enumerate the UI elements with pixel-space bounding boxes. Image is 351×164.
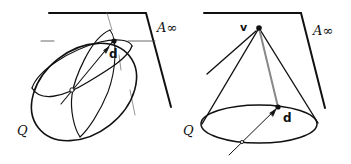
right-surface-q-label: Q xyxy=(183,124,194,137)
left-center-point xyxy=(70,88,74,92)
right-plane-label: A∞ xyxy=(313,24,333,37)
right-base-point xyxy=(240,140,243,143)
left-point-d-label: d xyxy=(109,48,118,60)
vertex-v-label: v xyxy=(240,22,247,33)
left-panel xyxy=(12,13,171,161)
ellipsoid-outline xyxy=(12,23,155,161)
right-arrowhead xyxy=(270,109,276,116)
left-point-d xyxy=(111,38,116,43)
right-panel xyxy=(201,13,325,155)
vertex-to-d-line xyxy=(259,28,278,107)
left-plane-label: A∞ xyxy=(157,21,177,34)
right-point-d-label: d xyxy=(283,112,292,124)
cone-left-side xyxy=(202,28,259,124)
cone-base-ellipse xyxy=(201,105,317,143)
left-surface-q-label: Q xyxy=(17,124,28,137)
ellipsoid-meridian xyxy=(71,30,110,137)
vertex-point-v xyxy=(256,25,262,31)
right-external-line xyxy=(207,31,256,74)
figure: A∞ d Q A∞ v d Q xyxy=(0,0,351,164)
right-point-d xyxy=(275,104,280,109)
